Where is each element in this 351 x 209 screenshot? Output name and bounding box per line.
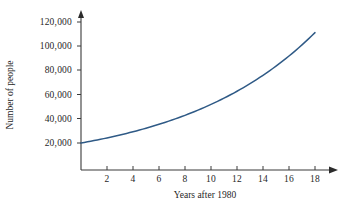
x-tick-label-8: 8 <box>183 174 188 184</box>
x-tick-label-6: 6 <box>157 174 162 184</box>
y-tick-label-100000: 100,000 <box>6 41 72 51</box>
y-axis-arrow-icon <box>78 10 84 18</box>
x-tick-label-14: 14 <box>258 174 268 184</box>
x-axis-title: Years after 1980 <box>174 190 236 200</box>
y-tick-label-20000: 20,000 <box>6 138 72 148</box>
chart-plot-area <box>0 0 351 209</box>
exponential-growth-curve <box>81 33 315 143</box>
y-tick-label-120000: 120,000 <box>6 17 72 27</box>
y-axis-title: Number of people <box>5 35 15 155</box>
x-tick-label-18: 18 <box>310 174 320 184</box>
chart-figure: 120,000 100,000 80,000 60,000 40,000 20,… <box>0 0 351 209</box>
x-tick-label-4: 4 <box>131 174 136 184</box>
y-tick-label-60000: 60,000 <box>6 90 72 100</box>
x-axis-arrow-icon <box>329 167 338 174</box>
y-tick-label-40000: 40,000 <box>6 114 72 124</box>
y-axis-ticks <box>77 22 81 143</box>
x-tick-label-12: 12 <box>232 174 242 184</box>
x-tick-label-16: 16 <box>284 174 294 184</box>
x-tick-label-10: 10 <box>206 174 216 184</box>
x-axis-ticks <box>107 166 315 170</box>
y-tick-label-80000: 80,000 <box>6 65 72 75</box>
x-tick-label-2: 2 <box>105 174 110 184</box>
